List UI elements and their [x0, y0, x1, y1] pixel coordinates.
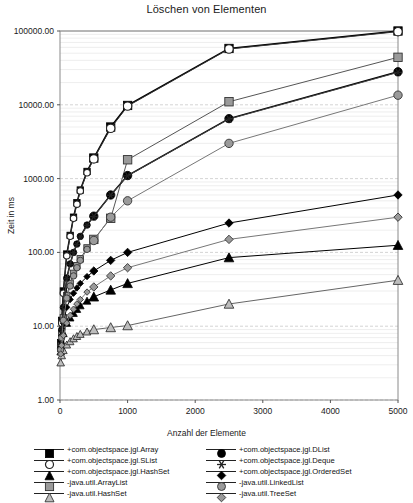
data-point-marker	[123, 264, 131, 272]
data-point-marker	[123, 279, 133, 288]
data-point-marker	[90, 283, 98, 291]
legend-gray-circle-icon	[216, 478, 225, 487]
data-point-marker	[107, 213, 115, 221]
legend-open-triangle-icon	[44, 489, 53, 498]
data-point-marker	[225, 139, 233, 147]
y-tick-label: 100.00	[28, 247, 54, 257]
data-point-marker	[394, 91, 402, 99]
data-point-marker	[77, 188, 83, 194]
legend-line-swatch	[34, 455, 64, 466]
legend-item-label: +com.objectspace.jgl.Array	[67, 444, 158, 455]
legend-item-label: -java.util.TreeSet	[239, 488, 296, 499]
legend-line-swatch	[206, 466, 236, 477]
legend-item[interactable]: -java.util.ArrayList	[34, 477, 169, 488]
data-point-marker	[84, 170, 90, 176]
y-tick-label: 1.00	[37, 395, 54, 405]
chart-legend: +com.objectspace.jgl.Array+com.objectspa…	[30, 444, 413, 500]
legend-line-swatch	[206, 444, 236, 455]
data-point-marker	[225, 45, 233, 53]
y-tick-label: 100000.00	[14, 26, 54, 36]
series-9	[57, 213, 402, 357]
x-axis-title: Anzahl der Elemente	[0, 428, 413, 438]
legend-item[interactable]: +com.objectspace.jgl.Deque	[206, 455, 352, 466]
series-line	[61, 32, 398, 346]
data-point-marker	[90, 236, 98, 244]
data-point-marker	[107, 124, 115, 132]
series-line	[61, 31, 398, 343]
x-tick-label: 4000	[321, 406, 340, 416]
legend-item-label: +com.objectspace.jgl.DList	[239, 444, 330, 455]
legend-column-left: +com.objectspace.jgl.Array+com.objectspa…	[34, 444, 169, 499]
data-point-marker	[90, 155, 98, 163]
y-tick-label: 10.00	[33, 321, 55, 331]
legend-line-swatch	[34, 466, 64, 477]
data-point-marker	[107, 272, 115, 280]
legend-item[interactable]: +com.objectspace.jgl.Array	[34, 444, 169, 455]
legend-filled-triangle-icon	[44, 467, 53, 476]
data-point-marker	[225, 219, 233, 227]
data-point-marker	[77, 257, 83, 263]
legend-line-swatch	[34, 477, 64, 488]
legend-line-swatch	[206, 477, 236, 488]
data-point-marker	[106, 285, 116, 294]
legend-line-swatch	[206, 455, 236, 466]
legend-item-label: +com.objectspace.jgl.OrderedSet	[239, 466, 352, 477]
series-5	[57, 68, 402, 352]
data-point-marker	[70, 273, 76, 279]
data-point-marker	[89, 292, 99, 301]
legend-gray-square-icon	[44, 478, 53, 487]
data-point-marker	[70, 215, 76, 221]
legend-line-swatch	[34, 488, 64, 499]
legend-gray-diamond-icon	[216, 489, 225, 498]
x-tick-label: 3000	[253, 406, 272, 416]
data-point-marker	[123, 102, 131, 110]
legend-item[interactable]: +com.objectspace.jgl.SList	[34, 455, 169, 466]
legend-item-label: +com.objectspace.jgl.HashSet	[67, 466, 169, 477]
x-tick-label: 0	[58, 406, 63, 416]
legend-item[interactable]: -java.util.LinkedList	[206, 477, 352, 488]
legend-filled-square-icon	[44, 445, 53, 454]
data-point-marker	[394, 53, 402, 61]
legend-line-swatch	[206, 488, 236, 499]
legend-item-label: -java.util.LinkedList	[239, 477, 304, 488]
legend-item-label: -java.util.HashSet	[67, 488, 127, 499]
data-point-marker	[107, 256, 115, 264]
legend-line-swatch	[34, 444, 64, 455]
data-point-marker	[394, 191, 402, 199]
data-point-marker	[74, 201, 80, 207]
x-tick-label: 5000	[389, 406, 408, 416]
data-point-marker	[225, 98, 233, 106]
legend-filled-diamond-icon	[216, 467, 225, 476]
data-point-marker	[393, 275, 403, 284]
series-6	[57, 69, 402, 351]
legend-item[interactable]: -java.util.TreeSet	[206, 488, 352, 499]
y-axis-title: Zeit in ms	[6, 197, 16, 234]
x-tick-label: 1000	[118, 406, 137, 416]
data-point-marker	[64, 253, 70, 259]
legend-item-label: +com.objectspace.jgl.SList	[67, 455, 157, 466]
legend-item[interactable]: +com.objectspace.jgl.HashSet	[34, 466, 169, 477]
data-point-marker	[64, 295, 70, 301]
legend-filled-circle-icon	[216, 445, 225, 454]
data-point-marker	[67, 283, 73, 289]
chart-page: Löschen von Elementen 1.0010.00100.00100…	[0, 0, 413, 503]
data-point-marker	[394, 27, 402, 35]
data-point-marker	[393, 240, 403, 249]
data-point-marker	[123, 156, 131, 164]
legend-item[interactable]: -java.util.HashSet	[34, 488, 169, 499]
data-point-marker	[67, 233, 73, 239]
legend-star-icon	[216, 456, 225, 465]
data-point-marker	[123, 248, 131, 256]
data-point-marker	[74, 265, 80, 271]
x-tick-label: 2000	[186, 406, 205, 416]
legend-open-circle-icon	[44, 456, 53, 465]
legend-item[interactable]: +com.objectspace.jgl.DList	[206, 444, 352, 455]
series-0	[57, 27, 402, 346]
legend-item-label: +com.objectspace.jgl.Deque	[239, 455, 335, 466]
data-point-marker	[84, 246, 90, 252]
data-point-marker	[57, 359, 65, 366]
y-tick-label: 1000.00	[23, 174, 54, 184]
legend-item[interactable]: +com.objectspace.jgl.OrderedSet	[206, 466, 352, 477]
data-point-marker	[394, 213, 402, 221]
data-point-marker	[123, 197, 131, 205]
